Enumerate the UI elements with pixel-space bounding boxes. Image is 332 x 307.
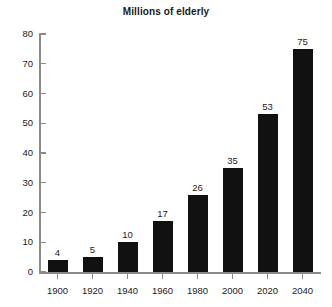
x-axis-tick bbox=[162, 274, 163, 279]
y-axis-tick-label: 20 bbox=[0, 208, 33, 218]
bar-value-label: 10 bbox=[108, 230, 148, 240]
y-axis-tick bbox=[41, 93, 46, 94]
x-axis-tick bbox=[232, 274, 233, 279]
y-axis-tick-label: 60 bbox=[0, 89, 33, 99]
y-axis-tick bbox=[41, 271, 46, 272]
bar bbox=[293, 49, 313, 272]
x-axis-tick-label: 2040 bbox=[280, 286, 326, 296]
y-axis-tick-label: 10 bbox=[0, 237, 33, 247]
y-axis-tick bbox=[41, 242, 46, 243]
bar-value-label: 35 bbox=[213, 156, 253, 166]
y-axis-tick bbox=[41, 152, 46, 153]
y-axis-tick-label: 70 bbox=[0, 59, 33, 69]
x-axis-tick bbox=[302, 274, 303, 279]
y-axis-tick bbox=[41, 63, 46, 64]
y-axis-tick-label: 30 bbox=[0, 178, 33, 188]
x-axis-tick bbox=[127, 274, 128, 279]
bar bbox=[118, 242, 138, 272]
x-axis-tick bbox=[267, 274, 268, 279]
y-axis-tick bbox=[41, 182, 46, 183]
bar bbox=[83, 257, 103, 272]
bar bbox=[188, 195, 208, 272]
chart-title: Millions of elderly bbox=[0, 6, 332, 17]
bar-value-label: 26 bbox=[178, 183, 218, 193]
y-axis-tick-label: 50 bbox=[0, 118, 33, 128]
y-axis-tick bbox=[41, 33, 46, 34]
y-axis-tick bbox=[41, 123, 46, 124]
x-axis-tick bbox=[57, 274, 58, 279]
bar bbox=[48, 260, 68, 272]
bar bbox=[223, 168, 243, 272]
bar-value-label: 5 bbox=[73, 245, 113, 255]
y-axis-tick-label: 80 bbox=[0, 29, 33, 39]
x-axis-line bbox=[39, 272, 321, 274]
y-axis-tick bbox=[41, 212, 46, 213]
y-axis-tick-label: 40 bbox=[0, 148, 33, 158]
x-axis-tick bbox=[92, 274, 93, 279]
bar-value-label: 75 bbox=[283, 37, 323, 47]
bar bbox=[258, 114, 278, 272]
bar-value-label: 17 bbox=[143, 209, 183, 219]
bar bbox=[153, 221, 173, 272]
bar-chart-figure: Millions of elderly 01020304050607080 19… bbox=[0, 0, 332, 307]
bar-value-label: 53 bbox=[248, 102, 288, 112]
y-axis-tick-label: 0 bbox=[0, 267, 33, 277]
bar-value-label: 4 bbox=[38, 248, 78, 258]
x-axis-tick bbox=[197, 274, 198, 279]
